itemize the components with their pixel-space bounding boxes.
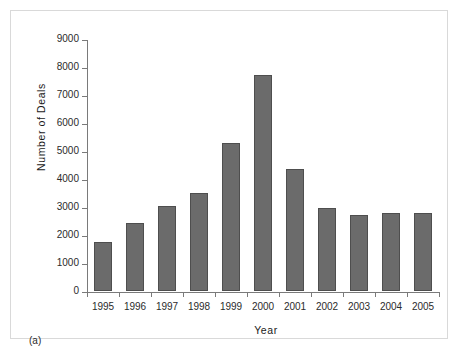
y-axis-line (87, 40, 88, 293)
x-tick-mark (215, 293, 216, 297)
x-tick-label: 2005 (407, 301, 439, 312)
x-tick-mark (151, 293, 152, 297)
y-tick-mark (82, 152, 87, 153)
x-tick-label: 1999 (215, 301, 247, 312)
y-tick-label: 4000 (57, 173, 79, 184)
x-tick-label: 1996 (119, 301, 151, 312)
bar-2000 (254, 75, 272, 291)
x-tick-mark (119, 293, 120, 297)
x-tick-mark (279, 293, 280, 297)
bar-1996 (126, 223, 144, 291)
y-tick-mark (82, 180, 87, 181)
x-tick-mark (87, 293, 88, 297)
y-tick-mark (82, 40, 87, 41)
x-tick-mark (183, 293, 184, 297)
x-tick-label: 2004 (375, 301, 407, 312)
figure-container: Number of Deals 010002000300040005000600… (0, 0, 460, 358)
x-tick-label: 1998 (183, 301, 215, 312)
x-axis-line (87, 292, 440, 293)
bar-1995 (94, 242, 112, 291)
y-tick-label: 1000 (57, 257, 79, 268)
x-tick-label: 1995 (87, 301, 119, 312)
y-tick-label: 9000 (57, 33, 79, 44)
y-tick-label: 5000 (57, 145, 79, 156)
x-tick-label: 2000 (247, 301, 279, 312)
x-tick-label: 2002 (311, 301, 343, 312)
x-tick-label: 2001 (279, 301, 311, 312)
y-tick-mark (82, 96, 87, 97)
panel-caption: (a) (29, 335, 41, 346)
bar-2004 (382, 213, 400, 291)
y-tick-mark (82, 124, 87, 125)
x-tick-mark (375, 293, 376, 297)
y-tick-label: 3000 (57, 201, 79, 212)
bar-1997 (158, 206, 176, 291)
y-tick-label: 6000 (57, 117, 79, 128)
x-tick-mark (311, 293, 312, 297)
x-tick-label: 1997 (151, 301, 183, 312)
bar-2005 (414, 213, 432, 291)
x-tick-label: 2003 (343, 301, 375, 312)
x-tick-mark (247, 293, 248, 297)
bar-1999 (222, 143, 240, 291)
x-axis-title: Year (86, 324, 446, 336)
x-tick-mark (343, 293, 344, 297)
y-tick-mark (82, 236, 87, 237)
bar-2002 (318, 208, 336, 291)
y-tick-mark (82, 264, 87, 265)
x-tick-mark (407, 293, 408, 297)
y-tick-label: 2000 (57, 229, 79, 240)
y-tick-label: 0 (73, 285, 79, 296)
bar-2001 (286, 169, 304, 291)
y-axis-title: Number of Deals (35, 57, 47, 197)
bar-1998 (190, 193, 208, 291)
plot-area: 0100020003000400050006000700080009000 19… (87, 40, 439, 292)
y-tick-label: 7000 (57, 89, 79, 100)
x-tick-mark (439, 293, 440, 297)
bar-2003 (350, 215, 368, 291)
y-tick-label: 8000 (57, 61, 79, 72)
figure-frame: Number of Deals 010002000300040005000600… (10, 10, 448, 339)
y-tick-mark (82, 208, 87, 209)
y-tick-mark (82, 68, 87, 69)
